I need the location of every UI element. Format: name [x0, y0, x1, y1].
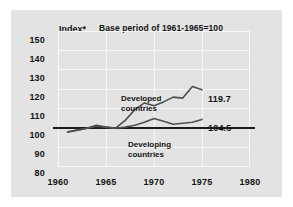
series-label-developing-line1: Developing	[128, 140, 171, 150]
x-tick-1965: 1965	[86, 177, 126, 187]
y-tick-130: 130	[19, 73, 45, 83]
series-label-developed-line2: countries	[121, 104, 161, 114]
x-tick-1975: 1975	[182, 177, 222, 187]
curve-developing	[68, 118, 202, 132]
y-tick-100: 100	[19, 130, 45, 140]
x-tick-1970: 1970	[134, 177, 174, 187]
y-tick-150: 150	[19, 35, 45, 45]
x-tick-1960: 1960	[38, 177, 78, 187]
series-label-developed-line1: Developed	[121, 94, 161, 104]
series-label-developing: Developing countries	[128, 140, 171, 159]
value-label-developing: 104.5	[208, 123, 232, 133]
series-label-developing-line2: countries	[128, 150, 171, 160]
y-tick-90: 90	[19, 149, 45, 159]
series-label-developed: Developed countries	[121, 94, 161, 113]
chart-figure: Index* Base period of 1961-1965=100 150 …	[11, 10, 282, 197]
y-tick-120: 120	[19, 92, 45, 102]
value-label-developed: 119.7	[208, 94, 231, 104]
x-tick-1980: 1980	[230, 177, 270, 187]
y-tick-140: 140	[19, 54, 45, 64]
y-tick-110: 110	[19, 111, 45, 121]
